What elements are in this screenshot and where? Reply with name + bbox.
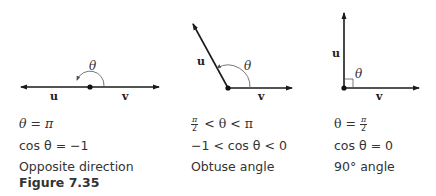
origin-dot	[341, 85, 346, 90]
vector-v-label: v	[257, 90, 265, 103]
caption-description-opposite: Opposite direction	[19, 160, 134, 174]
fraction-denominator: 2	[361, 125, 366, 133]
angle-arc	[77, 71, 104, 86]
caption-angle-opposite: θ = π	[19, 117, 53, 131]
angle-label: θ	[89, 59, 97, 73]
vector-u-label: u	[50, 90, 58, 103]
origin-dot	[225, 85, 230, 90]
fraction-pi-over-2: π 2	[191, 116, 198, 133]
caption-description-obtuse: Obtuse angle	[191, 160, 274, 174]
panel-opposite	[21, 71, 159, 89]
fraction-pi-over-2: π 2	[360, 116, 367, 133]
theta-symbol: θ	[19, 116, 27, 131]
caption-cosine-obtuse: −1 < cos θ < 0	[191, 139, 287, 153]
caption-cosine-right: cos θ = 0	[334, 139, 393, 153]
inequality-rest: < θ < π	[200, 116, 253, 131]
caption-cosine-opposite: cos θ = −1	[19, 139, 89, 153]
vector-u-label: u	[197, 55, 205, 68]
equals-sign: =	[31, 116, 41, 131]
vector-u-label: u	[332, 47, 340, 60]
panel-right	[341, 13, 419, 91]
vector-v-label: v	[121, 90, 129, 103]
figure-label: Figure 7.35	[19, 175, 100, 190]
vector-v-label: v	[375, 90, 383, 103]
cosine-relation: cos θ = 0	[334, 138, 393, 153]
fraction-denominator: 2	[192, 125, 197, 133]
caption-angle-obtuse: π 2 < θ < π	[191, 116, 253, 133]
cosine-relation: cos θ = −1	[19, 138, 89, 153]
origin-dot	[87, 84, 92, 89]
caption-angle-right: θ = π 2	[334, 116, 369, 133]
theta-equals: θ =	[334, 116, 360, 131]
cosine-relation: −1 < cos θ < 0	[191, 138, 287, 153]
caption-description-right: 90° angle	[334, 160, 395, 174]
angle-label: θ	[355, 67, 363, 81]
angle-label: θ	[244, 59, 252, 73]
panel-obtuse	[193, 24, 292, 91]
pi-symbol: π	[45, 116, 53, 131]
